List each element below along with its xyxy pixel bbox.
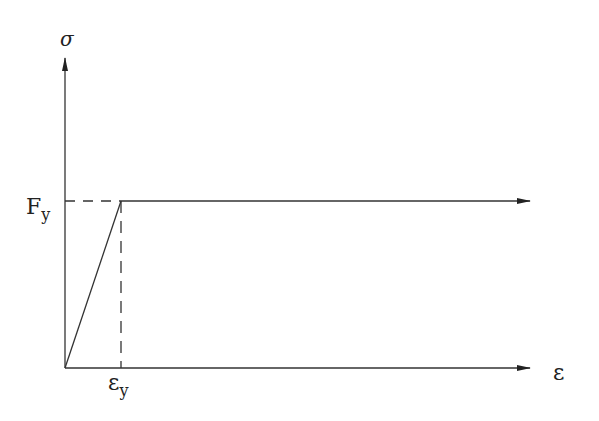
sigma-axis-label: σ xyxy=(60,27,75,51)
yield-strain-label: εy xyxy=(108,370,128,400)
yield-stress-label: Fy xyxy=(26,194,50,224)
stress-strain-diagram: σ Fy εy ε xyxy=(0,0,599,421)
elastic-line xyxy=(65,201,121,368)
epsilon-axis-label: ε xyxy=(553,360,564,385)
